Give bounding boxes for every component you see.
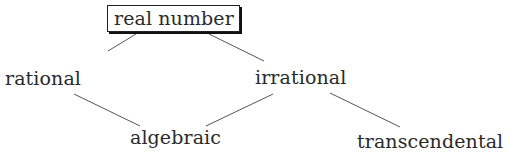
node-transcendental: transcendental xyxy=(357,130,503,152)
number-classification-diagram: real number rational irrational algebrai… xyxy=(0,0,507,157)
node-irrational: irrational xyxy=(255,66,346,88)
node-real-number: real number xyxy=(107,5,240,32)
node-algebraic: algebraic xyxy=(130,126,221,148)
edge-real-to-rational xyxy=(108,34,136,51)
edge-rational-to-algebraic xyxy=(74,94,140,126)
edge-irrational-to-transcendental xyxy=(330,93,400,127)
node-rational: rational xyxy=(5,67,81,89)
edge-irrational-to-algebraic xyxy=(206,94,273,126)
edge-real-to-irrational xyxy=(209,34,264,61)
